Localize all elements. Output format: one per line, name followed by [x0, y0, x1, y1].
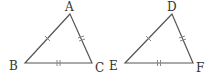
vertex-label-b: B [9, 59, 18, 73]
triangle-def: D E F [109, 0, 204, 75]
vertex-label-c: C [95, 61, 104, 75]
triangle-abc-outline [25, 14, 92, 63]
congruent-triangles-diagram: A B C D E F [0, 0, 211, 75]
vertex-label-a: A [64, 0, 74, 14]
vertex-label-d: D [167, 0, 177, 14]
triangle-abc: A B C [9, 0, 104, 75]
vertex-label-f: F [196, 61, 204, 75]
vertex-label-e: E [109, 59, 118, 73]
triangle-def-outline [125, 14, 193, 63]
